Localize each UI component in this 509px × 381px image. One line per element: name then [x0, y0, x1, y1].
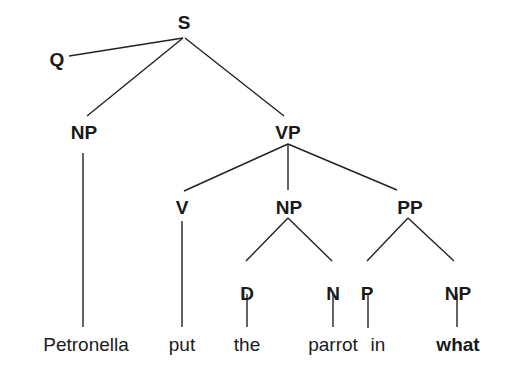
- word-in: in: [371, 335, 386, 354]
- node-np-object: NP: [276, 198, 302, 217]
- edge-pp-np3: [408, 218, 454, 261]
- node-d: D: [240, 284, 254, 303]
- node-n: N: [326, 284, 340, 303]
- edge-s-q: [69, 38, 183, 56]
- node-q: Q: [50, 50, 65, 69]
- syntax-tree: S Q NP VP V NP PP D N P NP Petronella pu…: [0, 0, 509, 381]
- node-np-wh: NP: [445, 284, 471, 303]
- node-vp: VP: [275, 123, 300, 142]
- word-the: the: [234, 335, 260, 354]
- edge-np2-d: [246, 218, 288, 261]
- word-parrot: parrot: [308, 335, 358, 354]
- word-what: what: [436, 335, 479, 354]
- tree-edges: [0, 0, 509, 381]
- node-np-subject: NP: [71, 123, 97, 142]
- edge-vp-v: [184, 144, 288, 191]
- node-s: S: [178, 13, 191, 32]
- node-p: P: [361, 284, 374, 303]
- node-v: V: [176, 198, 189, 217]
- edge-pp-p: [367, 218, 408, 261]
- node-pp: PP: [397, 198, 422, 217]
- edge-s-np1: [87, 38, 183, 116]
- edge-np2-n: [288, 218, 332, 261]
- word-put: put: [169, 335, 195, 354]
- edge-vp-pp: [288, 144, 397, 190]
- edge-s-vp: [185, 38, 284, 116]
- word-petronella: Petronella: [43, 335, 129, 354]
